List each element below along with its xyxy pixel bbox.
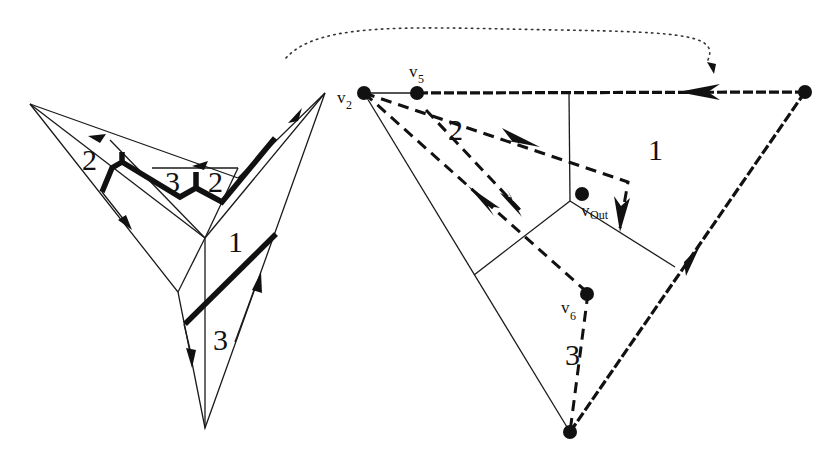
label-v6: v: [561, 298, 570, 317]
right-triangle-diagram: v 2 v 5 v Out v 6 2 1 3: [337, 62, 812, 439]
label-v2-sub: 2: [346, 98, 352, 112]
right-region-label-2: 2: [448, 113, 463, 146]
arrowhead-icon: [288, 108, 302, 123]
right-region-label-3: 3: [565, 338, 580, 371]
label-vout: v: [581, 201, 590, 220]
arrowhead-icon: [186, 348, 196, 368]
right-region-label-1: 1: [648, 133, 663, 166]
left-polyhedron-diagram: 2 3 2 1 3: [30, 93, 325, 428]
arrowhead-icon: [118, 215, 132, 230]
vertex-v6: [580, 287, 594, 301]
left-region-label-1: 1: [228, 225, 243, 258]
label-v2: v: [337, 88, 346, 107]
arrowhead-icon: [707, 62, 716, 74]
left-region-label-3: 3: [165, 165, 180, 198]
label-v6-sub: 6: [570, 309, 576, 323]
right-dashed-paths: [364, 93, 628, 432]
vertex-bottom: [563, 425, 577, 439]
label-v5-sub: 5: [418, 72, 424, 86]
diagram-figure: 2 3 2 1 3: [0, 0, 836, 460]
left-region-label-3b: 3: [213, 323, 228, 356]
arrowhead-icon: [252, 272, 262, 293]
arrowhead-icon: [614, 196, 630, 232]
label-vout-sub: Out: [590, 208, 609, 222]
vertex-top-right: [798, 85, 812, 99]
vertex-v5: [410, 86, 424, 100]
vertex-v2: [357, 86, 371, 100]
left-thick-path: [102, 138, 276, 324]
left-region-label-2b: 2: [208, 165, 223, 198]
dotted-connector: [286, 28, 716, 74]
label-v5: v: [409, 62, 418, 81]
arrowhead-icon: [468, 186, 500, 216]
arrowhead-icon: [676, 246, 700, 276]
arrowhead-icon: [88, 134, 106, 143]
left-region-label-2a: 2: [82, 143, 97, 176]
left-outline: [30, 93, 325, 428]
vertex-vout: [575, 187, 589, 201]
